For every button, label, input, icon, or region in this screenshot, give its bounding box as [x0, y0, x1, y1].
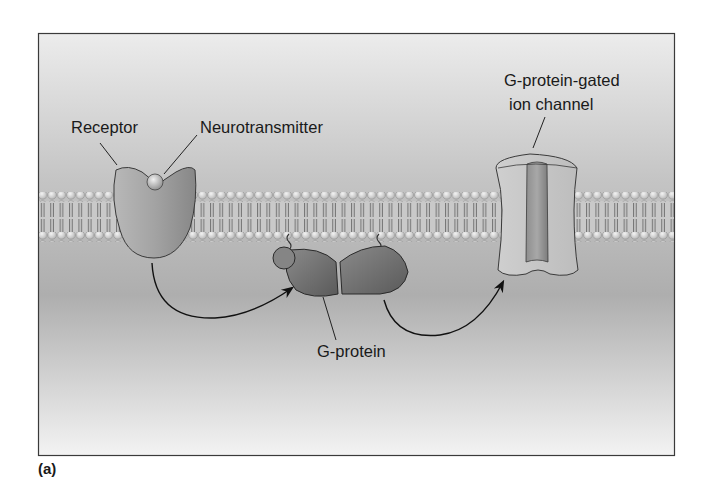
- gprotein-label: G-protein: [317, 343, 386, 360]
- figure: Receptor Neurotransmitter G-protein-gate…: [0, 0, 707, 491]
- channel-label-line1: G-protein-gated: [504, 72, 620, 89]
- panel-label: (a): [38, 460, 56, 477]
- receptor-label: Receptor: [71, 119, 138, 136]
- ion-channel: [496, 154, 578, 275]
- channel-label-line2: ion channel: [509, 96, 593, 113]
- neurotransmitter-label: Neurotransmitter: [200, 119, 323, 136]
- neurotransmitter-molecule: [147, 174, 163, 190]
